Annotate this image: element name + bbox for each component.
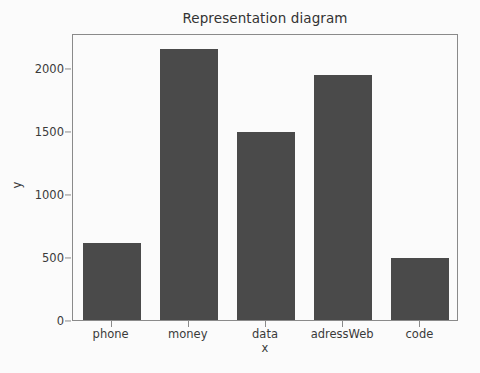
chart-title: Representation diagram — [72, 10, 458, 26]
chart-figure: Representation diagram y x 0500100015002… — [0, 0, 480, 373]
y-tick-mark — [65, 132, 71, 133]
plot-area — [72, 34, 458, 321]
x-axis-label: x — [72, 341, 458, 355]
x-tick-label-adressWeb: adressWeb — [311, 327, 374, 341]
y-tick-label: 500 — [18, 251, 64, 265]
y-tick-label: 0 — [18, 314, 64, 328]
bar-money — [160, 49, 218, 320]
x-tick-mark — [419, 321, 420, 327]
y-tick-mark — [65, 69, 71, 70]
y-tick-mark — [65, 195, 71, 196]
bar-phone — [83, 243, 141, 320]
y-tick-mark — [65, 320, 71, 321]
bar-adressWeb — [314, 75, 372, 320]
x-tick-label-data: data — [252, 327, 278, 341]
bar-data — [237, 132, 295, 320]
x-tick-label-money: money — [168, 327, 207, 341]
bar-code — [391, 258, 449, 320]
y-tick-label: 1000 — [18, 188, 64, 202]
bars-layer — [73, 35, 457, 320]
x-tick-label-code: code — [406, 327, 434, 341]
x-tick-mark — [265, 321, 266, 327]
x-tick-mark — [111, 321, 112, 327]
y-tick-mark — [65, 258, 71, 259]
y-tick-label: 1500 — [18, 125, 64, 139]
x-tick-label-phone: phone — [93, 327, 129, 341]
x-tick-mark — [188, 321, 189, 327]
y-tick-label: 2000 — [18, 62, 64, 76]
x-tick-mark — [342, 321, 343, 327]
